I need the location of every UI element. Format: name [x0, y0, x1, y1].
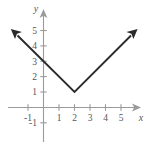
y-axis-label: y	[33, 3, 39, 14]
y-axis-group	[40, 9, 48, 142]
coordinate-plane-svg: -1 1 2 3 4 5 5 4 3 2 1 -1 x y	[0, 0, 152, 146]
y-label-3: 3	[32, 57, 37, 67]
y-label-5: 5	[32, 26, 37, 36]
x-label-4: 4	[103, 113, 108, 123]
x-axis-label: x	[138, 112, 144, 123]
y-label-1: 1	[32, 87, 37, 97]
y-label-2: 2	[32, 72, 37, 82]
y-label--1: -1	[29, 118, 37, 128]
x-label-2: 2	[72, 113, 77, 123]
function-curve-group	[11, 29, 138, 92]
x-label-5: 5	[119, 113, 124, 123]
x-tick-labels: -1 1 2 3 4 5	[24, 113, 124, 123]
x-label-3: 3	[88, 113, 93, 123]
y-label-4: 4	[32, 41, 37, 51]
x-label-1: 1	[57, 113, 62, 123]
graph-figure: -1 1 2 3 4 5 5 4 3 2 1 -1 x y	[0, 0, 152, 146]
